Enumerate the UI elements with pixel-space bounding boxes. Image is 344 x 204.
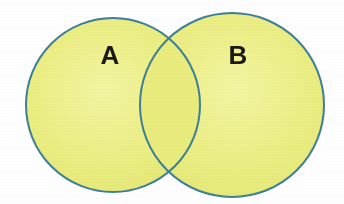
set-b-label: B — [229, 40, 248, 70]
venn-diagram-canvas: A B — [0, 0, 344, 204]
set-a-label: A — [101, 40, 120, 70]
venn-diagram-figure: A B — [0, 0, 344, 204]
